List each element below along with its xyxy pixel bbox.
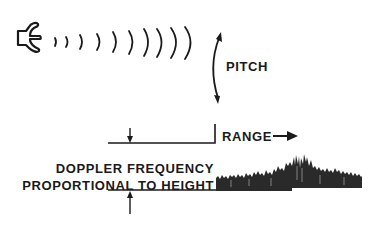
doppler-label-line-1: DOPPLER FREQUENCY [22, 160, 214, 177]
doppler-diagram: PITCH RANGE DOPPLER FREQUENCY PROPORTION… [0, 0, 377, 228]
doppler-frequency-label: DOPPLER FREQUENCY PROPORTIONAL TO HEIGHT [22, 160, 214, 194]
sound-wave-arcs-icon [55, 27, 191, 59]
pitch-label: PITCH [226, 59, 268, 74]
speaker-icon [18, 23, 41, 52]
pitch-arrow-icon [213, 32, 222, 104]
top-reference-line [108, 124, 215, 143]
doppler-signal-trace [216, 154, 362, 191]
range-label: RANGE [222, 129, 272, 144]
up-arrow-icon [127, 191, 133, 214]
down-arrow-icon [127, 128, 133, 143]
range-arrow-icon [273, 131, 298, 141]
doppler-label-line-2: PROPORTIONAL TO HEIGHT [22, 177, 214, 194]
